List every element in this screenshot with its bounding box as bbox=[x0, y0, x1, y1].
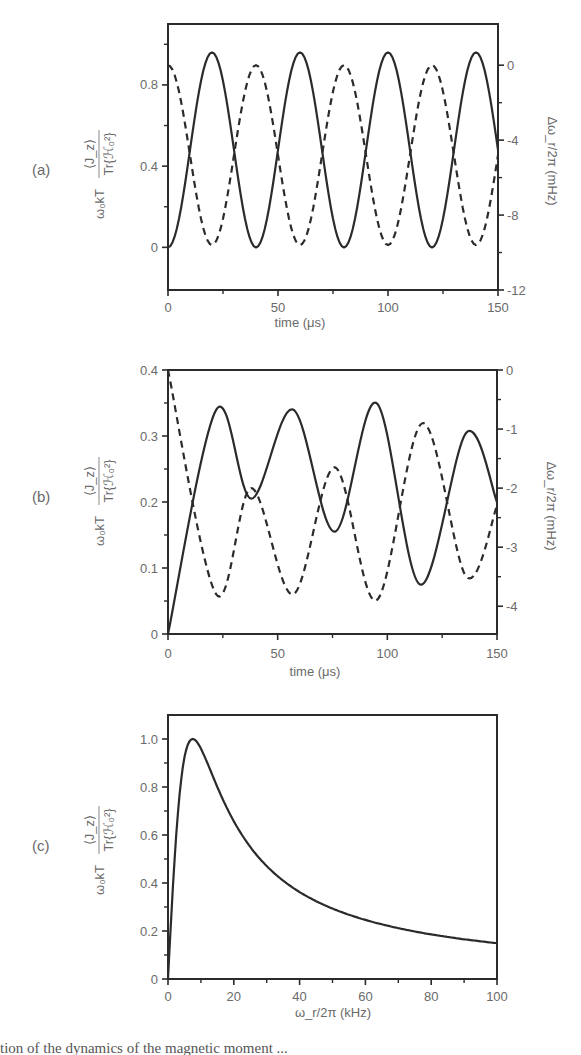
y2-tick-label: -12 bbox=[507, 283, 526, 298]
x-axis-label: time (μs) bbox=[275, 315, 326, 330]
y-tick-label: 0.2 bbox=[140, 495, 158, 510]
x-axis-label: ω_r/2π (kHz) bbox=[295, 1005, 371, 1020]
dashed-curve bbox=[168, 370, 497, 601]
plot-frame bbox=[168, 24, 498, 290]
panel-label: (a) bbox=[32, 161, 50, 178]
y2-tick-label: -4 bbox=[507, 133, 519, 148]
chart-panel-c: 02040608010000.20.40.60.81.0ω_r/2π (kHz)… bbox=[32, 715, 508, 1020]
x-tick-label: 40 bbox=[292, 989, 306, 1004]
y-label-numerator: ⟨J_z⟩ bbox=[82, 815, 97, 845]
x-tick-label: 60 bbox=[358, 989, 372, 1004]
y-tick-label: 0 bbox=[151, 240, 158, 255]
y-tick-label: 0.3 bbox=[140, 429, 158, 444]
y2-tick-label: 0 bbox=[507, 58, 514, 73]
x-tick-label: 80 bbox=[424, 989, 438, 1004]
y-label-prefix: ω₀kT bbox=[92, 189, 107, 219]
x-tick-label: 150 bbox=[486, 646, 508, 661]
y-tick-label: 0.6 bbox=[140, 828, 158, 843]
y-label-denominator: Tr{ℋ₀²} bbox=[101, 808, 116, 852]
x-tick-label: 150 bbox=[487, 300, 509, 315]
y2-tick-label: -8 bbox=[507, 208, 519, 223]
figure: 05010015000.40.80-4-8-12Δω_r/2π (mHz)tim… bbox=[0, 0, 581, 1040]
y-axis-label: ω₀kT⟨J_z⟩Tr{ℋ₀²} bbox=[82, 457, 116, 546]
y-label-prefix: ω₀kT bbox=[92, 865, 107, 895]
y-tick-label: 0.2 bbox=[140, 924, 158, 939]
y-label-numerator: ⟨J_z⟩ bbox=[82, 139, 97, 169]
x-tick-label: 50 bbox=[270, 646, 284, 661]
y-label-denominator: Tr{ℋ₀²} bbox=[101, 459, 116, 503]
figure-caption-fragment: tion of the dynamics of the magnetic mom… bbox=[0, 1040, 581, 1055]
x-axis-label: time (μs) bbox=[290, 664, 341, 679]
y-tick-label: 0 bbox=[151, 627, 158, 642]
y-axis-label: ω₀kT⟨J_z⟩Tr{ℋ₀²} bbox=[82, 130, 116, 219]
y2-axis-label: Δω_r/2π (mHz) bbox=[545, 116, 560, 205]
y2-axis-label: Δω_r/2π (mHz) bbox=[544, 461, 559, 550]
y-axis-label: ω₀kT⟨J_z⟩Tr{ℋ₀²} bbox=[82, 806, 116, 895]
y-label-prefix: ω₀kT bbox=[92, 516, 107, 546]
x-tick-label: 100 bbox=[377, 300, 399, 315]
y2-tick-label: 0 bbox=[506, 363, 513, 378]
y2-tick-label: -3 bbox=[506, 540, 518, 555]
x-tick-label: 0 bbox=[164, 300, 171, 315]
solid-curve bbox=[168, 52, 498, 247]
x-tick-label: 20 bbox=[227, 989, 241, 1004]
y2-tick-label: -1 bbox=[506, 422, 518, 437]
x-tick-label: 100 bbox=[486, 989, 508, 1004]
panel-label: (b) bbox=[32, 488, 50, 505]
y-tick-label: 0.4 bbox=[140, 876, 158, 891]
chart-panel-b: 05010015000.10.20.30.40-1-2-3-4Δω_r/2π (… bbox=[32, 363, 559, 680]
y-tick-label: 0.8 bbox=[140, 780, 158, 795]
plot-frame bbox=[168, 715, 497, 979]
y-tick-label: 1.0 bbox=[140, 732, 158, 747]
y-label-numerator: ⟨J_z⟩ bbox=[82, 466, 97, 496]
chart-panel-a: 05010015000.40.80-4-8-12Δω_r/2π (mHz)tim… bbox=[32, 24, 560, 330]
y-tick-label: 0 bbox=[151, 972, 158, 987]
x-tick-label: 100 bbox=[376, 646, 398, 661]
y2-tick-label: -4 bbox=[506, 599, 518, 614]
y-tick-label: 0.4 bbox=[140, 159, 158, 174]
solid-curve bbox=[168, 403, 497, 634]
y2-tick-label: -2 bbox=[506, 481, 518, 496]
y-tick-label: 0.1 bbox=[140, 561, 158, 576]
x-tick-label: 50 bbox=[271, 300, 285, 315]
y-label-denominator: Tr{ℋ₀²} bbox=[101, 132, 116, 176]
y-tick-label: 0.8 bbox=[140, 77, 158, 92]
panel-label: (c) bbox=[32, 837, 50, 854]
x-tick-label: 0 bbox=[164, 989, 171, 1004]
y-tick-label: 0.4 bbox=[140, 363, 158, 378]
solid-curve bbox=[168, 739, 497, 979]
x-tick-label: 0 bbox=[164, 646, 171, 661]
